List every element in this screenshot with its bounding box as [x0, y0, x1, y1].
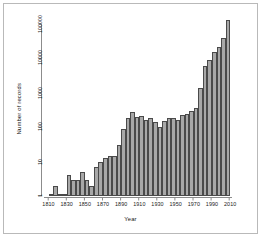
y-tick-label: 1000	[37, 77, 43, 109]
y-tick-label: 1	[37, 180, 43, 212]
x-tick-label: 1950	[169, 201, 181, 207]
y-tick-label: 10	[37, 146, 43, 178]
y-tick-label: 100	[37, 111, 43, 143]
bar	[226, 20, 231, 196]
y-axis-title-text: Number of records	[16, 83, 22, 134]
x-tick-label: 1810	[42, 201, 54, 207]
y-axis-title: Number of records	[14, 0, 24, 218]
x-axis-title-text: Year	[124, 216, 137, 222]
plot-area	[44, 22, 232, 196]
x-tick-label: 2010	[224, 201, 236, 207]
bar-series	[44, 22, 232, 196]
x-tick-label: 1910	[133, 201, 145, 207]
x-axis-title: Year	[0, 216, 261, 222]
x-tick-label: 1850	[79, 201, 91, 207]
y-tick-label: 10000	[37, 42, 43, 74]
x-tick-label: 1990	[206, 201, 218, 207]
chart-figure: 110100100010000100000 181018301850187018…	[0, 0, 261, 237]
y-tick-label: 100000	[37, 8, 43, 40]
x-tick-label: 1890	[115, 201, 127, 207]
x-tick-label: 1930	[151, 201, 163, 207]
x-tick-label: 1870	[97, 201, 109, 207]
x-tick-label: 1970	[188, 201, 200, 207]
x-tick-label: 1830	[61, 201, 73, 207]
